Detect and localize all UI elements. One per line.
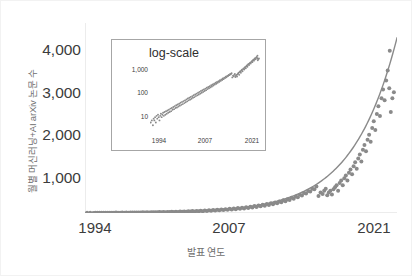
inset-data-point <box>161 116 163 118</box>
inset-x-tick-label: 2007 <box>198 138 212 145</box>
data-point <box>316 194 320 198</box>
data-point <box>378 114 382 118</box>
data-point <box>330 192 334 196</box>
inset-scatter-points <box>150 55 260 127</box>
inset-data-point <box>251 61 253 63</box>
y-tick-label: 4,000 <box>33 42 81 58</box>
x-axis-tick-labels: 1994 2007 2021 <box>1 220 412 240</box>
inset-plot-area <box>150 52 260 132</box>
inset-y-axis-tick-labels: 1,000 100 10 <box>114 40 148 152</box>
data-point <box>358 152 362 156</box>
data-point <box>349 167 353 171</box>
data-point <box>345 179 349 183</box>
data-point <box>356 156 360 160</box>
inset-data-point <box>157 114 159 116</box>
inset-data-point <box>153 119 155 121</box>
x-tick-label: 2007 <box>212 220 245 235</box>
data-point <box>386 69 390 73</box>
inset-data-point <box>231 72 233 74</box>
data-point <box>389 110 393 114</box>
data-point <box>336 189 340 193</box>
inset-data-point <box>159 115 161 117</box>
inset-data-point <box>168 109 170 111</box>
data-point <box>372 119 376 123</box>
data-point <box>392 90 396 94</box>
data-point <box>355 167 359 171</box>
y-tick-label: 3,000 <box>33 85 81 101</box>
inset-data-point <box>156 118 158 120</box>
data-point <box>388 49 392 53</box>
inset-data-point <box>236 76 238 78</box>
data-point <box>359 160 363 164</box>
inset-data-point <box>238 74 240 76</box>
data-point <box>350 172 354 176</box>
data-point <box>384 78 388 82</box>
data-point <box>376 104 380 108</box>
data-point <box>373 128 377 132</box>
data-point <box>381 88 385 92</box>
inset-data-point <box>158 116 160 118</box>
x-axis-title: 발표 연도 <box>1 244 411 259</box>
inset-data-point <box>154 116 156 118</box>
inset-data-point <box>242 70 244 72</box>
inset-data-point <box>253 60 255 62</box>
inset-data-point <box>152 124 154 126</box>
x-tick-label: 2021 <box>357 220 390 235</box>
inset-data-point <box>150 122 152 124</box>
data-point <box>314 184 318 188</box>
inset-data-point <box>258 58 260 60</box>
inset-x-axis-tick-labels: 1994 2007 2021 <box>112 138 267 150</box>
inset-y-tick-label: 10 <box>114 114 148 121</box>
inset-y-tick-label: 1,000 <box>114 67 148 74</box>
chart-figure: 월별 머신러닝+AI arXiv 논문 수 4,000 3,000 2,000 … <box>0 0 412 276</box>
inset-data-point <box>246 66 248 68</box>
y-tick-label: 2,000 <box>33 127 81 143</box>
inset-data-point <box>151 119 153 121</box>
inset-data-point <box>250 63 252 65</box>
inset-data-point <box>170 110 172 112</box>
inset-data-point <box>153 118 155 120</box>
data-point <box>324 187 328 191</box>
data-point <box>383 98 387 102</box>
data-point <box>344 173 348 177</box>
inset-scatter-svg <box>150 52 260 132</box>
data-point <box>362 143 366 147</box>
x-tick-label: 1994 <box>78 220 111 235</box>
y-tick-label: 1,000 <box>33 170 81 186</box>
inset-data-point <box>234 73 236 75</box>
data-point <box>353 160 357 164</box>
inset-data-point <box>155 122 157 124</box>
data-point <box>387 86 391 90</box>
data-point <box>369 140 373 144</box>
data-point <box>390 96 394 100</box>
inset-data-point <box>240 72 242 74</box>
inset-data-point <box>245 67 247 69</box>
inset-y-tick-label: 100 <box>114 90 148 97</box>
inset-data-point <box>257 55 259 57</box>
inset-x-tick-label: 2021 <box>245 138 259 145</box>
data-point <box>341 183 345 187</box>
inset-data-point <box>248 64 250 66</box>
inset-chart: log-scale 1,000 100 10 1994 2007 2021 <box>111 39 266 151</box>
data-point <box>364 149 368 153</box>
inset-data-point <box>243 69 245 71</box>
inset-x-tick-label: 1994 <box>152 138 166 145</box>
data-point <box>367 133 371 137</box>
inset-data-point <box>159 119 161 121</box>
